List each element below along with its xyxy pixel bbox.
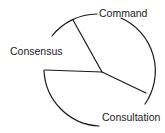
divider-command-consultation bbox=[102, 72, 146, 93]
arc-top-left bbox=[52, 14, 97, 36]
arc-right bbox=[121, 18, 155, 104]
label-command: Command bbox=[99, 7, 148, 19]
divider-command-consensus bbox=[73, 20, 102, 72]
label-consultation: Consultation bbox=[102, 111, 161, 123]
label-consensus: Consensus bbox=[10, 45, 63, 57]
arc-bottom-left bbox=[44, 70, 99, 126]
divider-consensus-bottom bbox=[45, 70, 102, 72]
decision-styles-diagram: Command Consensus Consultation bbox=[0, 0, 165, 133]
